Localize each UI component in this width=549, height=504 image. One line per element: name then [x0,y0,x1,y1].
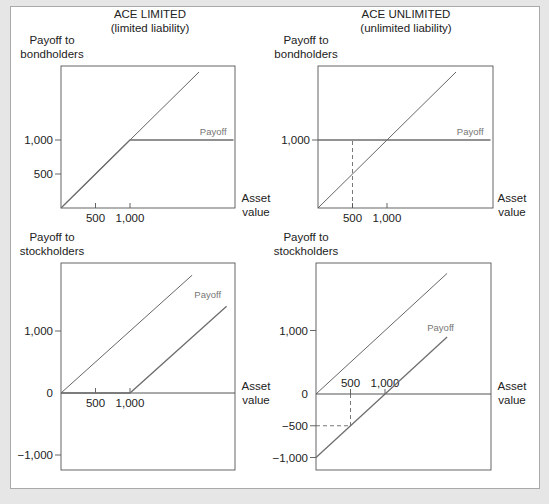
plot-frame [61,66,235,208]
x-axis-label: value [242,394,270,406]
plot-frame [316,263,491,470]
x-tick-label: 500 [343,212,362,224]
payoff-diagrams: ACE LIMITED(limited liability)Payoff tob… [0,0,549,504]
x-tick-label: 500 [86,212,105,224]
y-axis-label: bondholders [274,48,338,60]
y-axis-label: Payoff to [29,34,74,46]
payoff-label: Payoff [457,126,484,137]
asset-value-line [316,273,447,394]
y-axis-label: bondholders [20,48,84,60]
payoff-line [61,306,227,393]
y-tick-label: 1,000 [24,134,53,146]
y-tick-label: 1,000 [279,325,308,337]
y-axis-label: Payoff to [29,231,74,243]
y-tick-label: 1,000 [24,325,53,337]
x-tick-label: 1,000 [371,377,400,389]
panel-unlimited-stock: Payoff tostockholdersAssetvalue5001,0001… [273,231,528,470]
x-tick-label: 1,000 [116,212,145,224]
x-tick-label: 500 [86,397,105,409]
y-axis-label: stockholders [274,245,339,257]
y-tick-label: 0 [302,388,308,400]
x-axis-label: value [498,394,526,406]
y-axis-label: Payoff to [283,34,328,46]
panel-limited-bond: ACE LIMITED(limited liability)Payoff tob… [20,8,271,224]
y-axis-label: Payoff to [283,231,328,243]
panel-unlimited-bond: ACE UNLIMITED(unlimited liability)Payoff… [274,8,527,224]
x-axis-label: Asset [242,380,272,392]
y-tick-label: −1,000 [273,452,309,464]
x-axis-label: Asset [498,192,528,204]
y-axis-label: stockholders [20,245,85,257]
panel-limited-stock: Payoff tostockholdersAssetvalue5001,0001… [18,231,272,470]
payoff-label: Payoff [427,322,454,333]
y-tick-label: 500 [34,168,53,180]
x-axis-label: value [498,206,526,218]
payoff-line [61,140,234,208]
payoff-label: Payoff [194,289,221,300]
y-tick-label: 0 [47,387,53,399]
x-axis-label: Asset [242,192,272,204]
x-tick-label: 1,000 [116,397,145,409]
x-axis-label: Asset [498,380,528,392]
x-axis-label: value [242,206,270,218]
x-tick-label: 500 [341,377,360,389]
payoff-label: Payoff [200,126,227,137]
panel-title: ACE UNLIMITED [362,8,451,20]
panel-subtitle: (limited liability) [111,22,190,34]
asset-value-line [61,275,192,393]
y-tick-label: 1,000 [281,134,310,146]
panel-title: ACE LIMITED [114,8,186,20]
panel-subtitle: (unlimited liability) [360,22,452,34]
plot-frame [318,66,493,208]
y-tick-label: −1,000 [18,449,54,461]
y-tick-label: −500 [282,420,308,432]
payoff-line [316,337,447,458]
x-tick-label: 1,000 [373,212,402,224]
